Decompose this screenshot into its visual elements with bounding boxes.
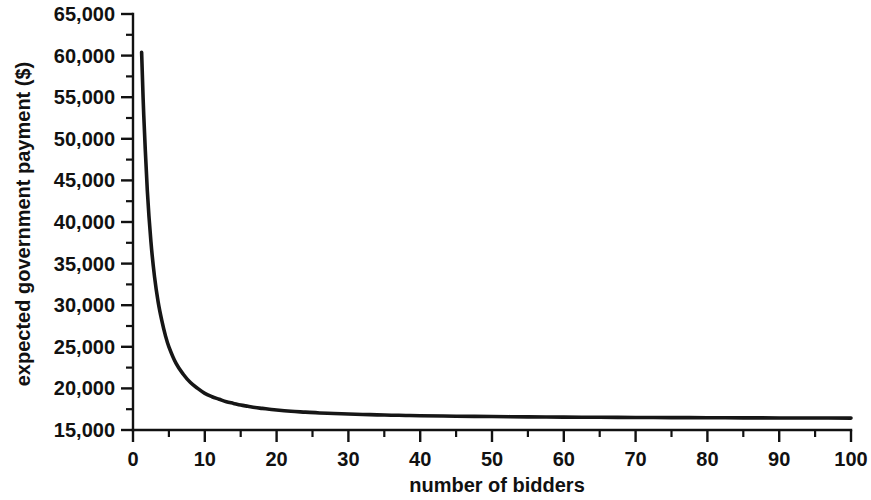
x-tick-label: 60: [553, 448, 575, 470]
chart-figure: expected government payment ($) number o…: [0, 0, 871, 500]
y-tick-label: 50,000: [54, 128, 115, 150]
x-axis-title: number of bidders: [409, 474, 585, 496]
y-tick-label: 25,000: [54, 336, 115, 358]
y-axis-tick-labels: 15,00020,00025,00030,00035,00040,00045,0…: [54, 3, 115, 441]
x-tick-label: 40: [409, 448, 431, 470]
y-tick-label: 60,000: [54, 45, 115, 67]
x-tick-label: 100: [834, 448, 867, 470]
y-tick-label: 30,000: [54, 294, 115, 316]
x-tick-label: 80: [696, 448, 718, 470]
y-tick-label: 35,000: [54, 253, 115, 275]
y-tick-label: 65,000: [54, 3, 115, 25]
x-tick-label: 90: [768, 448, 790, 470]
x-tick-label: 50: [481, 448, 503, 470]
x-tick-label: 0: [127, 448, 138, 470]
y-tick-label: 15,000: [54, 419, 115, 441]
data-series-line: [142, 52, 851, 418]
y-tick-label: 55,000: [54, 86, 115, 108]
x-axis-ticks: [133, 430, 851, 442]
y-tick-label: 20,000: [54, 377, 115, 399]
x-axis-tick-labels: 0102030405060708090100: [127, 448, 867, 470]
y-axis-ticks: [121, 14, 133, 430]
x-tick-label: 20: [265, 448, 287, 470]
y-tick-label: 45,000: [54, 169, 115, 191]
x-tick-label: 30: [337, 448, 359, 470]
x-tick-label: 70: [624, 448, 646, 470]
y-tick-label: 40,000: [54, 211, 115, 233]
chart-plot-area: expected government payment ($) number o…: [0, 0, 871, 500]
y-axis-title: expected government payment ($): [12, 62, 34, 387]
x-tick-label: 10: [194, 448, 216, 470]
